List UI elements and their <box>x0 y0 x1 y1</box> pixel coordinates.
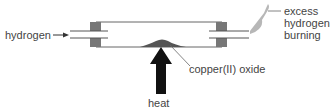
copper-oxide-label: copper(II) oxide <box>189 63 265 75</box>
heat-arrow-icon <box>150 47 172 94</box>
burning-label: burning <box>284 29 321 41</box>
outlet-tube <box>209 31 249 38</box>
copper-oxide-mound <box>140 40 186 48</box>
inlet-tube <box>70 31 108 38</box>
heat-label: heat <box>148 97 169 109</box>
excess-hydrogen-label: hydrogen <box>284 17 330 29</box>
copper-oxide-pointer <box>170 45 190 66</box>
hydrogen-label: hydrogen <box>5 29 51 41</box>
hydrogen-arrow-icon <box>53 33 69 38</box>
flame-plume <box>250 4 269 34</box>
excess-label: excess <box>284 5 318 17</box>
